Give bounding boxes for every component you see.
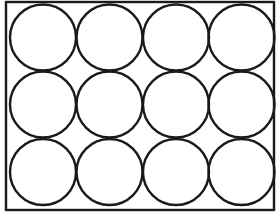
circle-r3-c4 (209, 139, 275, 205)
bounding-rectangle (6, 2, 274, 210)
circle-r1-c3 (143, 5, 209, 71)
circle-r3-c1 (10, 139, 76, 205)
circle-r3-c2 (77, 139, 143, 205)
circle-r2-c2 (77, 72, 143, 138)
circle-r2-c1 (10, 72, 76, 138)
circle-r1-c1 (10, 5, 76, 71)
circles-in-rectangle-figure (0, 0, 279, 213)
circle-r3-c3 (143, 139, 209, 205)
circle-r2-c3 (143, 72, 209, 138)
circle-r2-c4 (209, 72, 275, 138)
circle-r1-c4 (209, 5, 275, 71)
diagram-canvas (0, 0, 279, 213)
circle-grid (10, 5, 275, 206)
circle-r1-c2 (77, 5, 143, 71)
